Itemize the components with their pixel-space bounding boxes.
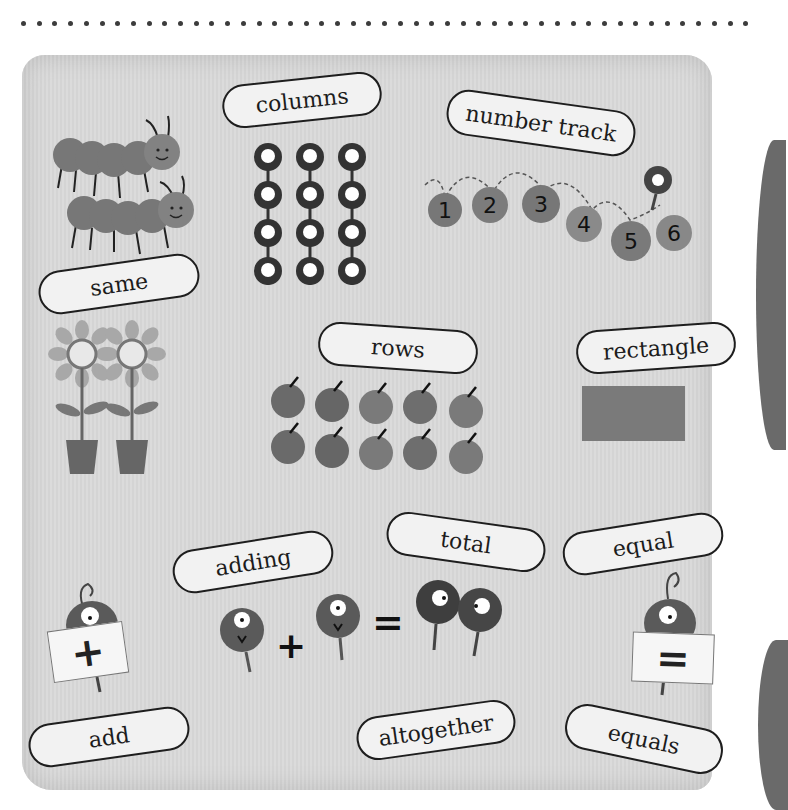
rule-dot (52, 21, 57, 26)
track-tile-3: 3 (522, 185, 560, 223)
rule-dot (272, 21, 277, 26)
rule-dot (84, 21, 89, 26)
track-tile-4: 4 (566, 206, 602, 242)
rule-dot (618, 21, 623, 26)
rule-dot (414, 21, 419, 26)
rule-dot (586, 21, 591, 26)
rule-dot (712, 21, 717, 26)
rule-dot (100, 21, 105, 26)
rule-dot (209, 21, 214, 26)
rule-dot (257, 21, 262, 26)
rectangle-shape (582, 386, 685, 441)
rule-dot (21, 21, 26, 26)
creature-left (218, 580, 268, 680)
rule-dot (304, 21, 309, 26)
rule-dot (147, 21, 152, 26)
track-tile-1: 1 (428, 193, 462, 227)
rule-dot (382, 21, 387, 26)
rule-dot (319, 21, 324, 26)
page-edge-illustration-bottom (758, 640, 788, 810)
rule-dot (225, 21, 230, 26)
caterpillars-illustration (48, 110, 198, 250)
equals-creature: = (624, 565, 724, 705)
page-edge-illustration-top (756, 140, 786, 450)
rule-dot (555, 21, 560, 26)
rule-dot (335, 21, 340, 26)
rule-dot (571, 21, 576, 26)
rule-dot (743, 21, 748, 26)
track-tile-5: 5 (611, 221, 651, 261)
equals-operator: = (372, 600, 404, 644)
rule-dot (492, 21, 497, 26)
rule-dot (429, 21, 434, 26)
rule-dot (162, 21, 167, 26)
track-tile-6: 6 (656, 215, 692, 251)
track-tile-2: 2 (472, 187, 508, 223)
rule-dot (633, 21, 638, 26)
rule-dot (37, 21, 42, 26)
rule-dot (131, 21, 136, 26)
rule-dot (602, 21, 607, 26)
creature-right (312, 580, 362, 680)
rule-dot (366, 21, 371, 26)
rule-dot (445, 21, 450, 26)
creatures-pair (410, 570, 510, 670)
rule-dot (508, 21, 513, 26)
flowers-illustration (50, 322, 180, 482)
rule-dot (115, 21, 120, 26)
rule-dot (728, 21, 733, 26)
rule-dot (68, 21, 73, 26)
plus-operator: + (276, 625, 306, 666)
apples-illustration (268, 375, 498, 475)
columns-illustration (250, 135, 380, 295)
rule-dot (523, 21, 528, 26)
rule-dot (476, 21, 481, 26)
rule-dot (351, 21, 356, 26)
add-creature: + (46, 580, 146, 700)
rule-dot (288, 21, 293, 26)
rule-dot (398, 21, 403, 26)
rule-dot (241, 21, 246, 26)
rule-dot (178, 21, 183, 26)
rule-dot (194, 21, 199, 26)
rule-dot (649, 21, 654, 26)
plus-sign-card: + (47, 621, 129, 683)
equals-sign-card: = (631, 632, 715, 685)
rule-dot (680, 21, 685, 26)
rule-dot (461, 21, 466, 26)
rule-dot (539, 21, 544, 26)
rule-dot (696, 21, 701, 26)
rule-dot (665, 21, 670, 26)
